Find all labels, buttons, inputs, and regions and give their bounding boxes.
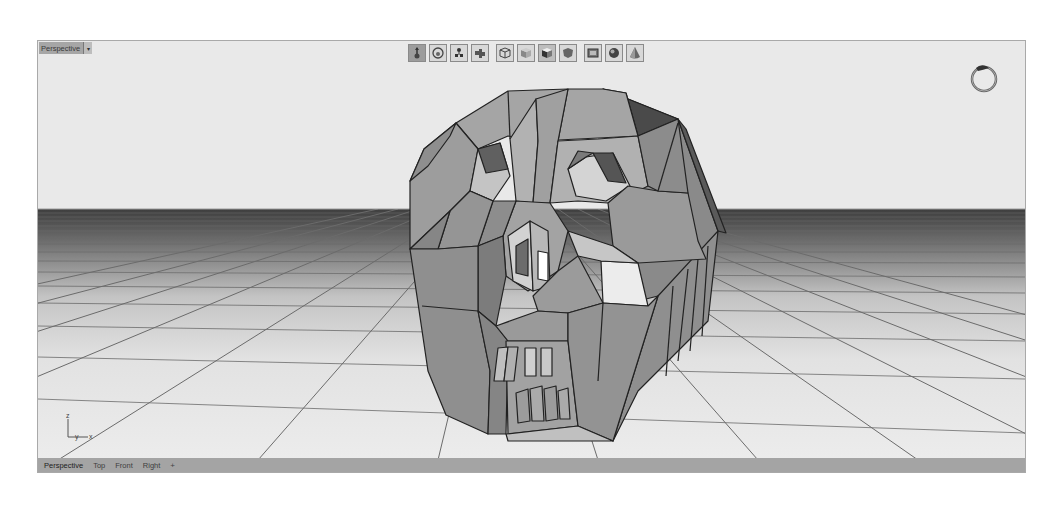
axis-y-label: y [75, 433, 79, 441]
3d-scene-canvas[interactable] [38, 41, 1025, 460]
tab-right[interactable]: Right [143, 461, 161, 470]
cone-icon[interactable] [626, 44, 644, 62]
gumball-move-icon[interactable] [408, 44, 426, 62]
tab-front[interactable]: Front [115, 461, 133, 470]
sphere-icon[interactable] [605, 44, 623, 62]
rendered-cube-icon[interactable] [538, 44, 556, 62]
wireframe-cube-icon[interactable] [496, 44, 514, 62]
puzzle-snap-icon[interactable] [471, 44, 489, 62]
xray-frame-icon[interactable] [584, 44, 602, 62]
viewport-title-menu[interactable]: Perspective ▾ [39, 42, 92, 54]
navigation-ring-icon[interactable] [966, 59, 1002, 95]
world-axis-icon: z y x [58, 411, 108, 451]
viewport-perspective[interactable]: Perspective ▾ [37, 40, 1026, 473]
viewport-tab-bar: Perspective Top Front Right + [38, 458, 1025, 472]
tab-perspective[interactable]: Perspective [44, 461, 83, 470]
rotate-view-icon[interactable] [429, 44, 447, 62]
axis-z-label: z [66, 412, 70, 419]
viewport-title: Perspective [41, 44, 83, 53]
axis-x-label: x [89, 433, 93, 440]
ghosted-shape-icon[interactable] [559, 44, 577, 62]
add-viewport-tab-button[interactable]: + [170, 461, 175, 470]
pan-object-icon[interactable] [450, 44, 468, 62]
tab-top[interactable]: Top [93, 461, 105, 470]
shaded-cube-icon[interactable] [517, 44, 535, 62]
chevron-down-icon[interactable]: ▾ [83, 42, 92, 54]
viewport-toolbar [408, 44, 644, 64]
